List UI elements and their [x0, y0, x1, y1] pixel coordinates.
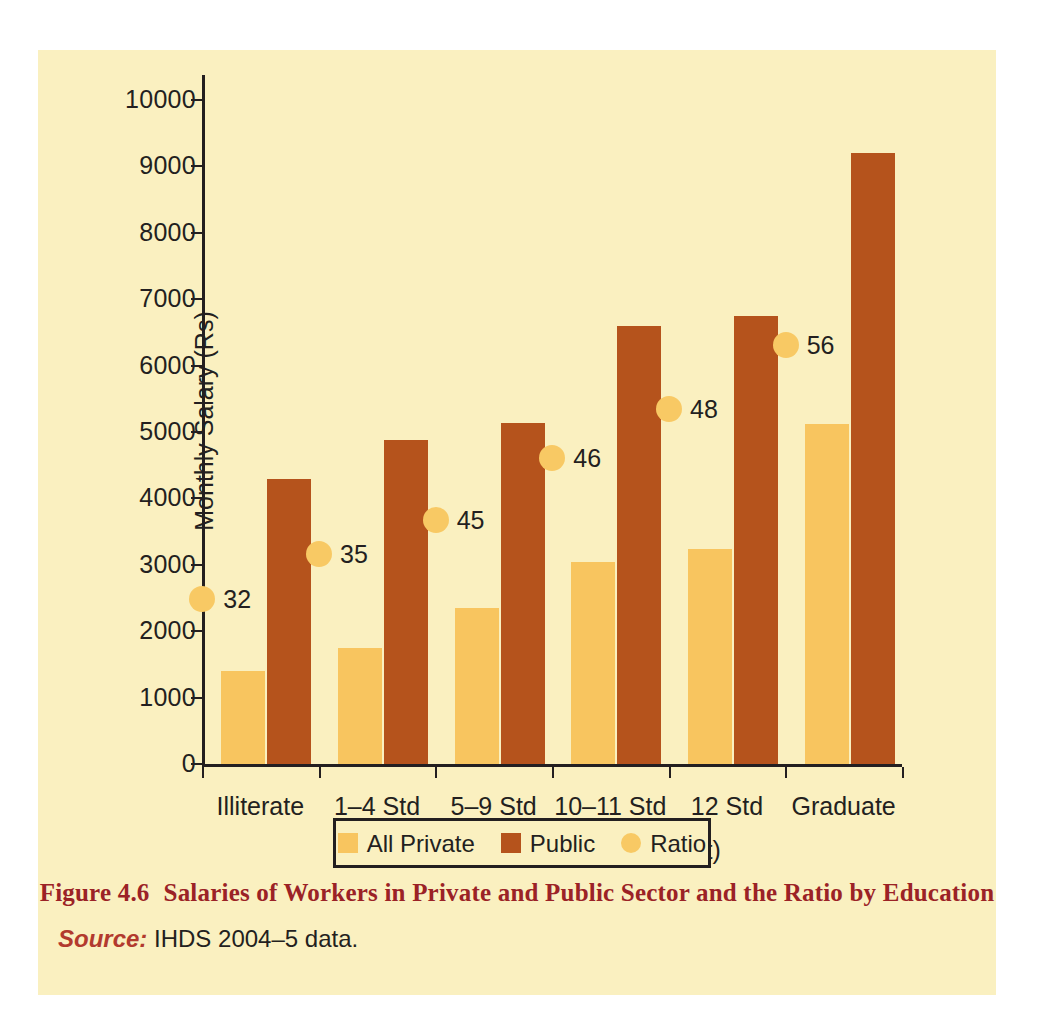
legend-square-icon — [501, 833, 521, 853]
ratio-marker — [306, 541, 332, 567]
y-axis-line — [202, 75, 205, 767]
ratio-marker — [539, 445, 565, 471]
ratio-value-label: 35 — [340, 541, 368, 567]
x-axis-tick — [669, 767, 671, 778]
y-axis-tick-label: 6000 — [139, 353, 196, 378]
legend-label: Ratio — [650, 831, 706, 856]
x-axis-tick — [785, 767, 787, 778]
y-axis-tick-label: 8000 — [139, 220, 196, 245]
caption-text: Salaries of Workers in Private and Publi… — [164, 879, 995, 906]
x-axis-tick — [435, 767, 437, 778]
x-axis-tick — [902, 767, 904, 778]
ratio-marker — [189, 586, 215, 612]
legend-item: Public — [501, 831, 595, 856]
legend-label: All Private — [367, 831, 475, 856]
y-axis-tick-label: 3000 — [139, 552, 196, 577]
bar-public — [851, 153, 895, 764]
ratio-value-label: 32 — [223, 586, 251, 612]
x-axis-tick-label: 12 Std — [669, 793, 786, 819]
legend-square-icon — [338, 833, 358, 853]
chart-area: Monthly Salary (Rs) Educational Level (i… — [38, 50, 996, 850]
x-axis-tick-label: 10–11 Std — [552, 793, 669, 819]
x-axis-tick-label: 1–4 Std — [319, 793, 436, 819]
legend-circle-icon — [621, 833, 641, 853]
y-axis-tick-label: 2000 — [139, 618, 196, 643]
ratio-value-label: 46 — [573, 445, 601, 471]
ratio-marker — [423, 507, 449, 533]
bar-public — [617, 326, 661, 764]
bar-public — [384, 440, 428, 764]
legend-item: All Private — [338, 831, 475, 856]
y-axis-tick-label: 0 — [182, 751, 196, 776]
figure-panel: Monthly Salary (Rs) Educational Level (i… — [38, 50, 996, 995]
legend-label: Public — [530, 831, 595, 856]
ratio-value-label: 56 — [807, 332, 835, 358]
figure-source: Source: IHDS 2004–5 data. — [58, 925, 958, 953]
legend-item: Ratio — [621, 831, 706, 856]
x-axis-tick — [552, 767, 554, 778]
x-axis-tick — [202, 767, 204, 778]
x-axis-tick-label: Graduate — [785, 793, 902, 819]
ratio-marker — [773, 332, 799, 358]
bar-private — [805, 424, 849, 764]
bar-public — [267, 479, 311, 764]
caption-number: Figure 4.6 — [40, 879, 150, 906]
x-axis-tick-label: 5–9 Std — [435, 793, 552, 819]
bar-public — [734, 316, 778, 764]
ratio-value-label: 48 — [690, 396, 718, 422]
y-axis-tick-label: 9000 — [139, 153, 196, 178]
y-axis-tick-label: 10000 — [125, 87, 196, 112]
figure-caption: Figure 4.6Salaries of Workers in Private… — [38, 878, 996, 908]
ratio-value-label: 45 — [457, 507, 485, 533]
bar-private — [455, 608, 499, 764]
figure-page: Monthly Salary (Rs) Educational Level (i… — [0, 0, 1045, 1026]
x-axis-tick — [319, 767, 321, 778]
bar-private — [571, 562, 615, 764]
y-axis-tick-label: 5000 — [139, 419, 196, 444]
plot-area: Monthly Salary (Rs) Educational Level (i… — [202, 75, 902, 767]
bar-public — [501, 423, 545, 764]
y-axis-tick-label: 7000 — [139, 286, 196, 311]
bar-private — [688, 549, 732, 764]
x-axis-tick-label: Illiterate — [202, 793, 319, 819]
ratio-marker — [656, 396, 682, 422]
chart-legend: All PrivatePublicRatio — [333, 818, 711, 868]
y-axis-tick-label: 4000 — [139, 485, 196, 510]
bar-private — [221, 671, 265, 764]
source-label: Source: — [58, 925, 147, 952]
y-axis-tick-label: 1000 — [139, 685, 196, 710]
bar-private — [338, 648, 382, 764]
source-text: IHDS 2004–5 data. — [147, 925, 358, 952]
